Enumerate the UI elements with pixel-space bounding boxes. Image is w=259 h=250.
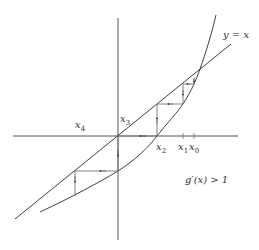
cobweb-arrows <box>75 78 194 182</box>
label-x0: x0 <box>189 141 199 155</box>
label-x3: x3 <box>120 113 130 127</box>
cobweb-path <box>75 78 194 196</box>
condition-label: g′(x) > 1 <box>185 174 228 185</box>
cobweb-diagram: y = x g′(x) > 1 x4 x3 x2 x1 x0 <box>0 0 259 250</box>
label-x1: x1 <box>178 141 188 155</box>
label-x2: x2 <box>156 141 166 155</box>
identity-line <box>15 44 231 219</box>
label-x4: x4 <box>75 119 86 133</box>
identity-line-label: y = x <box>222 29 249 40</box>
